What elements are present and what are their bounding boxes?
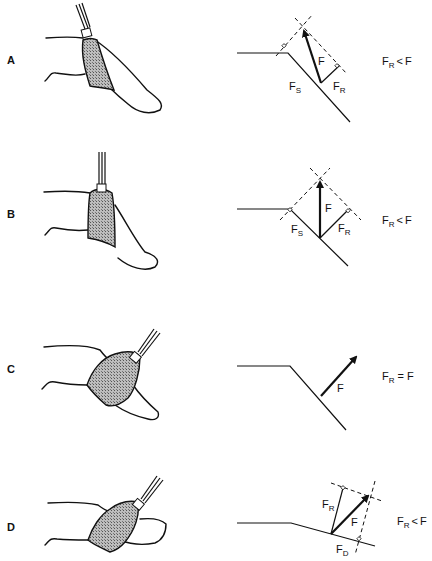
label-fr-d: FR bbox=[322, 498, 335, 513]
force-diagram-d: FR F FD FR<F bbox=[237, 481, 427, 558]
finger-illustration-b bbox=[44, 152, 158, 269]
label-f-c: F bbox=[337, 382, 344, 394]
panel-b: B F FS FR FR<F bbox=[7, 152, 412, 269]
panel-label-c: C bbox=[7, 363, 15, 375]
label-fr-b: FR bbox=[338, 222, 351, 237]
force-diagram-b: F FS FR FR<F bbox=[237, 168, 412, 266]
label-fr-a: FR bbox=[333, 80, 346, 95]
relation-c: FR=F bbox=[382, 370, 414, 385]
relation-a: FR<F bbox=[382, 55, 412, 70]
surface-line-c bbox=[237, 366, 346, 430]
label-f-a: F bbox=[318, 55, 325, 67]
instrument-tip-b bbox=[97, 184, 106, 192]
relation-b: FR<F bbox=[382, 214, 412, 229]
finger-illustration-c bbox=[42, 329, 160, 420]
figure-canvas: A F FS FR FR<F B bbox=[0, 0, 432, 561]
surface-line-b bbox=[237, 209, 348, 266]
relation-d: FR<F bbox=[397, 515, 427, 530]
panel-c: C F FR=F bbox=[7, 329, 414, 430]
label-fs-a: FS bbox=[289, 80, 301, 95]
force-diagram-a: F FS FR FR<F bbox=[237, 14, 412, 122]
label-fs-b: FS bbox=[291, 223, 303, 238]
panel-a: A F FS FR FR<F bbox=[7, 3, 412, 122]
label-f-d: F bbox=[351, 516, 358, 528]
dashed-construction-b1 bbox=[280, 168, 330, 220]
panel-label-a: A bbox=[7, 54, 15, 66]
panel-label-b: B bbox=[7, 208, 15, 220]
force-diagram-c: F FR=F bbox=[237, 357, 414, 430]
panel-d: D FR F FD FR<F bbox=[7, 476, 427, 558]
periodontal-tissue-b bbox=[88, 189, 115, 247]
label-fd-d: FD bbox=[336, 543, 349, 558]
label-f-b: F bbox=[325, 202, 332, 214]
dashed-construction-d1 bbox=[331, 483, 382, 501]
instrument-tip-a bbox=[81, 28, 92, 38]
finger-illustration-d bbox=[45, 476, 166, 552]
panel-label-d: D bbox=[7, 521, 15, 533]
finger-illustration-a bbox=[45, 3, 161, 113]
dashed-construction-a1 bbox=[276, 14, 313, 56]
dashed-construction-b2 bbox=[310, 168, 361, 220]
